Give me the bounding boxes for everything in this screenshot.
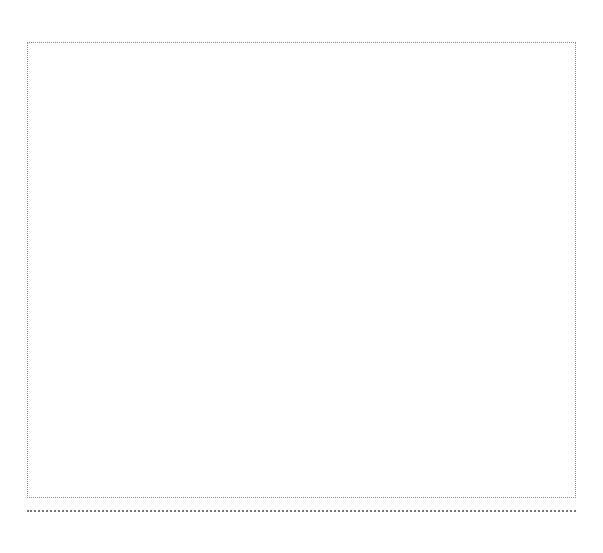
frame-content-area bbox=[28, 43, 575, 497]
page bbox=[0, 0, 603, 553]
dotted-separator bbox=[27, 510, 576, 512]
empty-content-frame bbox=[27, 42, 576, 498]
